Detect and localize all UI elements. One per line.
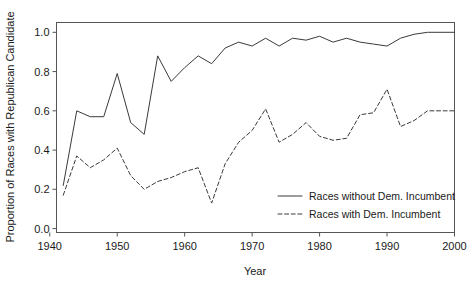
x-tick-label: 1940 [38,240,62,252]
y-tick-label: 0.0 [34,223,49,235]
line-chart: 0.00.20.40.60.81.0 194019501960197019801… [0,0,472,287]
x-tick-label: 1950 [105,240,129,252]
x-axis-ticks: 1940195019601970198019902000 [38,233,467,252]
series-line-1 [63,89,454,203]
x-tick-label: 1990 [375,240,399,252]
chart-figure: 0.00.20.40.60.81.0 194019501960197019801… [0,0,472,287]
legend-label-0: Races without Dem. Incumbent [309,190,455,202]
x-axis-label: Year [244,265,267,277]
y-axis-label: Proportion of Races with Republican Cand… [4,11,16,242]
y-axis-ticks: 0.00.20.40.60.81.0 [34,26,56,234]
x-tick-label: 1960 [172,240,196,252]
chart-legend: Races without Dem. IncumbentRaces with D… [278,190,455,220]
legend-label-1: Races with Dem. Incumbent [309,208,440,220]
data-series-group [63,32,454,203]
y-tick-label: 1.0 [34,26,49,38]
x-tick-label: 1970 [240,240,264,252]
y-tick-label: 0.8 [34,66,49,78]
y-tick-label: 0.6 [34,105,49,117]
y-tick-label: 0.4 [34,144,49,156]
y-tick-label: 0.2 [34,183,49,195]
x-tick-label: 1980 [307,240,331,252]
series-line-0 [63,32,454,185]
x-tick-label: 2000 [442,240,466,252]
